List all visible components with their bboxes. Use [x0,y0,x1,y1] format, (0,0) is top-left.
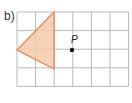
grid-diagram: P [0,0,132,103]
point-p [70,48,74,52]
point-p-label: P [71,34,78,45]
